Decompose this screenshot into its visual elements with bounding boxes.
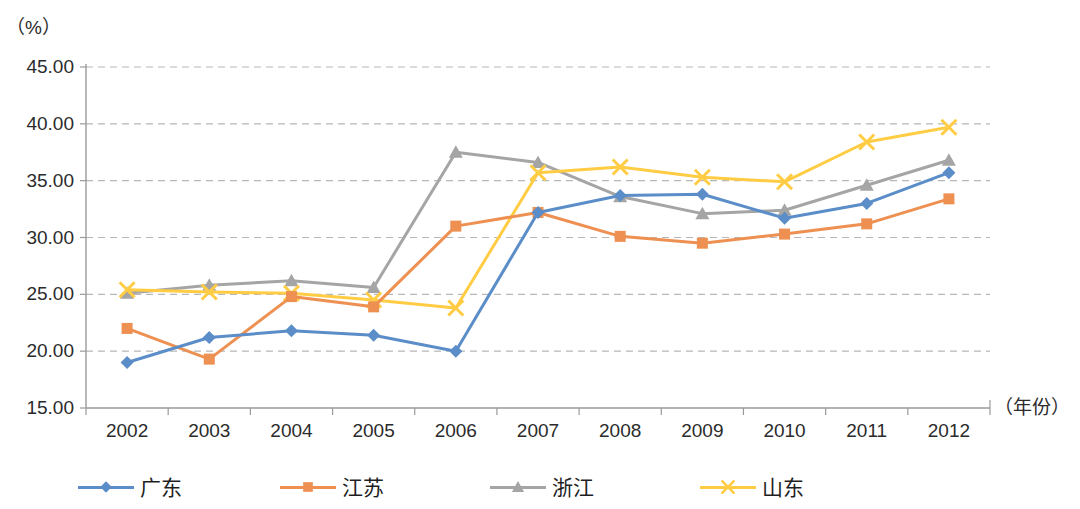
data-point-marker bbox=[121, 356, 134, 369]
data-point-marker bbox=[696, 188, 709, 201]
data-point-marker bbox=[450, 221, 461, 232]
legend-label: 山东 bbox=[762, 477, 804, 498]
data-point-marker bbox=[615, 231, 626, 242]
x-tick-label: 2008 bbox=[599, 420, 641, 442]
y-axis-unit-label: （%） bbox=[6, 12, 61, 39]
data-point-marker bbox=[697, 238, 708, 249]
x-tick-label: 2002 bbox=[106, 420, 148, 442]
x-tick-label: 2011 bbox=[846, 420, 887, 442]
data-point-marker bbox=[779, 229, 790, 240]
x-tick-label: 2004 bbox=[270, 420, 312, 442]
series-1 bbox=[122, 193, 955, 364]
x-tick-label: 2007 bbox=[517, 420, 559, 442]
y-tick-label: 15.00 bbox=[4, 397, 74, 419]
line-chart: （%） （年份） 45.0040.0035.0030.0025.0020.001… bbox=[0, 0, 1080, 509]
data-point-marker bbox=[943, 193, 954, 204]
data-point-marker bbox=[203, 331, 216, 344]
x-tick-label: 2006 bbox=[435, 420, 477, 442]
data-point-marker bbox=[721, 480, 734, 493]
data-point-marker bbox=[368, 301, 379, 312]
data-point-marker bbox=[204, 354, 215, 365]
legend-label: 江苏 bbox=[342, 477, 384, 498]
x-axis-unit-label: （年份） bbox=[994, 392, 1070, 419]
data-point-marker bbox=[367, 329, 380, 342]
x-tick-label: 2012 bbox=[928, 420, 970, 442]
data-point-marker bbox=[449, 345, 462, 358]
series-2 bbox=[120, 145, 956, 299]
y-tick-label: 30.00 bbox=[4, 227, 74, 249]
data-point-marker bbox=[285, 324, 298, 337]
x-tick-label: 2005 bbox=[352, 420, 394, 442]
x-tick-label: 2010 bbox=[763, 420, 805, 442]
data-point-marker bbox=[303, 482, 313, 492]
legend-swatch bbox=[700, 476, 756, 498]
legend-item-山东[interactable]: 山东 bbox=[700, 472, 804, 502]
x-tick-label: 2003 bbox=[188, 420, 230, 442]
data-point-marker bbox=[512, 481, 524, 492]
legend-swatch bbox=[78, 476, 134, 498]
legend-marker-square-icon bbox=[301, 480, 315, 494]
legend-item-浙江[interactable]: 浙江 bbox=[490, 472, 594, 502]
data-point-marker bbox=[100, 481, 111, 492]
y-tick-label: 20.00 bbox=[4, 340, 74, 362]
x-tick-label: 2009 bbox=[681, 420, 723, 442]
data-point-marker bbox=[860, 197, 873, 210]
legend-item-广东[interactable]: 广东 bbox=[78, 472, 182, 502]
data-point-marker bbox=[861, 218, 872, 229]
y-tick-label: 40.00 bbox=[4, 113, 74, 135]
legend-swatch bbox=[490, 476, 546, 498]
data-point-marker bbox=[286, 291, 297, 302]
legend-label: 浙江 bbox=[552, 477, 594, 498]
legend-marker-cross-icon bbox=[721, 480, 735, 494]
legend-item-江苏[interactable]: 江苏 bbox=[280, 472, 384, 502]
data-point-marker bbox=[942, 166, 955, 179]
chart-legend: 广东江苏浙江山东 bbox=[0, 470, 1080, 509]
y-tick-label: 25.00 bbox=[4, 283, 74, 305]
y-tick-label: 45.00 bbox=[4, 56, 74, 78]
series-line bbox=[127, 173, 949, 363]
legend-marker-triangle-icon bbox=[511, 480, 525, 494]
legend-swatch bbox=[280, 476, 336, 498]
y-tick-label: 35.00 bbox=[4, 170, 74, 192]
data-point-marker bbox=[942, 153, 956, 166]
data-point-marker bbox=[122, 323, 133, 334]
legend-label: 广东 bbox=[140, 477, 182, 498]
legend-marker-diamond-icon bbox=[99, 480, 113, 494]
